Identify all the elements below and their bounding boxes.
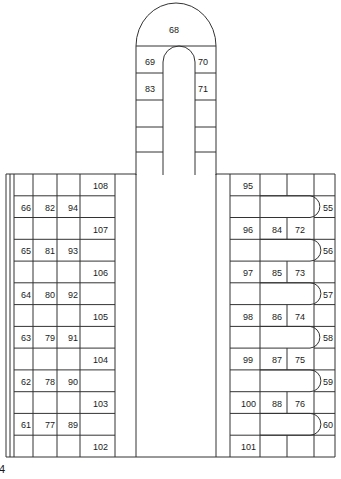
right-cell-73: 73 (295, 269, 305, 278)
left-cell-91: 91 (68, 334, 78, 343)
right-cell-75: 75 (295, 356, 305, 365)
left-cell-61: 61 (21, 421, 31, 430)
figure-canvas: 68 69 70 83 71 108 66 82 94 107 65 81 93… (0, 0, 341, 479)
right-cell-74: 74 (295, 313, 305, 322)
left-cell-92: 92 (68, 291, 78, 300)
left-cell-81: 81 (45, 247, 55, 256)
left-cell-108: 108 (93, 182, 108, 191)
right-cell-101: 101 (241, 443, 256, 452)
left-cell-63: 63 (21, 334, 31, 343)
tower-cell-68: 68 (169, 26, 179, 35)
left-cell-65: 65 (21, 247, 31, 256)
right-cell-76: 76 (295, 400, 305, 409)
right-cell-85: 85 (272, 269, 282, 278)
center-panel-lines (136, 174, 230, 457)
right-cell-95: 95 (243, 182, 253, 191)
left-cell-107: 107 (93, 226, 108, 235)
right-cell-84: 84 (272, 226, 282, 235)
left-cell-89: 89 (68, 421, 78, 430)
right-cell-98: 98 (243, 313, 253, 322)
left-cell-90: 90 (68, 378, 78, 387)
right-cell-88: 88 (272, 400, 282, 409)
left-cell-105: 105 (93, 313, 108, 322)
body-outline (6, 174, 335, 457)
left-cell-62: 62 (21, 378, 31, 387)
right-cell-100: 100 (241, 400, 256, 409)
right-cell-60: 60 (323, 421, 333, 430)
right-cell-56: 56 (323, 247, 333, 256)
left-cell-82: 82 (45, 204, 55, 213)
right-cell-97: 97 (243, 269, 253, 278)
diagram-linework (0, 0, 341, 479)
left-cell-80: 80 (45, 291, 55, 300)
right-cell-57: 57 (323, 291, 333, 300)
tower-inner-arch (163, 46, 195, 175)
figure-corner-number: 4 (0, 464, 5, 475)
right-cell-96: 96 (243, 226, 253, 235)
tower-cell-70: 70 (198, 58, 208, 67)
right-cell-72: 72 (295, 226, 305, 235)
right-cell-58: 58 (323, 334, 333, 343)
left-cell-94: 94 (68, 204, 78, 213)
left-cell-103: 103 (93, 400, 108, 409)
right-cell-87: 87 (272, 356, 282, 365)
tower-cell-69: 69 (145, 58, 155, 67)
right-cell-86: 86 (272, 313, 282, 322)
left-cell-79: 79 (45, 334, 55, 343)
left-cell-77: 77 (45, 421, 55, 430)
left-cell-104: 104 (93, 356, 108, 365)
left-cell-64: 64 (21, 291, 31, 300)
right-cell-99: 99 (243, 356, 253, 365)
left-cell-93: 93 (68, 247, 78, 256)
left-cell-66: 66 (21, 204, 31, 213)
right-cell-55: 55 (323, 204, 333, 213)
left-cell-102: 102 (93, 443, 108, 452)
right-cell-59: 59 (323, 378, 333, 387)
tower-cell-83: 83 (145, 85, 155, 94)
left-cell-106: 106 (93, 269, 108, 278)
tower-cell-71: 71 (198, 85, 208, 94)
left-cell-78: 78 (45, 378, 55, 387)
